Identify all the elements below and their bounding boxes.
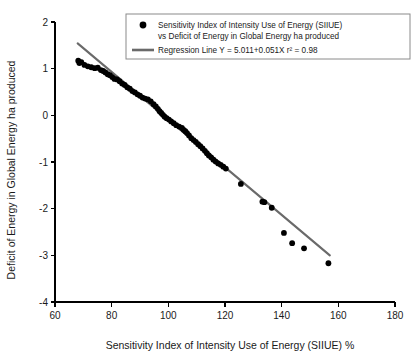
y-axis-title: Deficit of Energy in Global Energy ha pr… <box>5 60 17 279</box>
legend-dot-icon <box>140 22 147 29</box>
data-point <box>238 181 244 187</box>
x-tick-label: 100 <box>160 310 177 321</box>
data-point <box>281 230 287 236</box>
y-tick-label: 1 <box>42 63 48 74</box>
chart-canvas: 210-1-2-3-4 6080100120140160180 Deficit … <box>0 0 420 363</box>
data-point <box>301 245 307 251</box>
y-axis: 210-1-2-3-4 <box>39 17 55 308</box>
y-tick-label: -1 <box>39 157 48 168</box>
y-tick-label: -4 <box>39 297 48 308</box>
chart-legend: Sensitivity Index of Intensity Use of En… <box>126 14 410 59</box>
legend-label: Sensitivity Index of Intensity Use of En… <box>158 21 343 30</box>
x-tick-label: 160 <box>330 310 347 321</box>
x-tick-label: 60 <box>49 310 61 321</box>
legend-label: Regression Line Y = 5.011+0.051X r² = 0.… <box>158 46 318 55</box>
scatter-chart: 210-1-2-3-4 6080100120140160180 Deficit … <box>0 0 420 363</box>
x-tick-label: 120 <box>217 310 234 321</box>
data-point <box>289 240 295 246</box>
y-tick-label: 2 <box>42 17 48 28</box>
data-point <box>269 205 275 211</box>
y-tick-label: -3 <box>39 250 48 261</box>
y-tick-label: 0 <box>42 110 48 121</box>
legend-label: vs Deficit of Energy in Global Energy ha… <box>158 32 340 41</box>
data-points <box>75 58 331 266</box>
y-tick-label: -2 <box>39 203 48 214</box>
data-point <box>223 166 229 172</box>
x-tick-label: 80 <box>106 310 118 321</box>
x-axis: 6080100120140160180 <box>49 302 403 321</box>
data-point <box>326 260 332 266</box>
x-axis-title: Sensitivity Index of Intensity Use of En… <box>106 339 355 351</box>
data-point <box>261 199 267 205</box>
x-tick-label: 140 <box>273 310 290 321</box>
x-tick-label: 180 <box>387 310 404 321</box>
